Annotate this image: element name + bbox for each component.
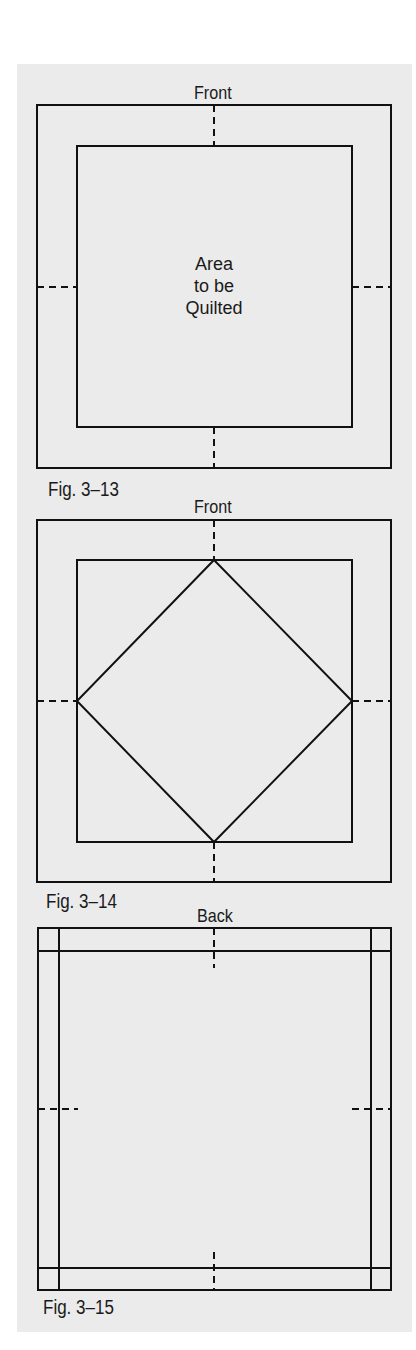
fig-3-13-caption: Fig. 3–13	[48, 478, 119, 501]
outer-square	[38, 928, 391, 1290]
quilting-diagrams	[0, 0, 416, 1350]
fig-3-13-side-label: Front	[194, 82, 232, 104]
center-text-line-2: to be	[164, 275, 264, 297]
inner-square	[77, 560, 352, 842]
diamond	[77, 560, 352, 842]
outer-square	[37, 520, 391, 882]
center-text-line-3: Quilted	[164, 297, 264, 319]
center-text-line-1: Area	[164, 253, 264, 275]
fig-3-14-side-label: Front	[194, 496, 232, 518]
fig-3-15-drawing	[38, 928, 391, 1290]
fig-3-14-drawing	[37, 520, 391, 882]
fig-3-15-caption: Fig. 3–15	[43, 1296, 114, 1319]
fig-3-15-side-label: Back	[197, 905, 233, 927]
fig-3-13-center-text: Area to be Quilted	[164, 253, 264, 319]
fig-3-14-caption: Fig. 3–14	[46, 890, 117, 913]
